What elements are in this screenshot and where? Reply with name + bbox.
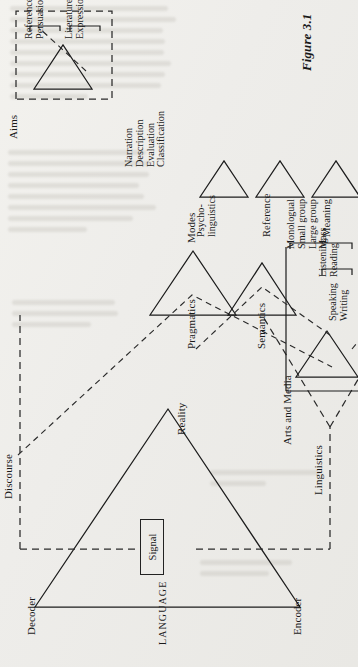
- psycholinguistics-line-2: linguistics: [207, 195, 218, 237]
- figure-linework: [0, 0, 358, 667]
- label-linguistics: Linguistics: [313, 445, 324, 495]
- label-semantics-reference: Reference: [262, 194, 273, 237]
- language-triangle: [35, 409, 300, 607]
- syntactics-fan: [352, 285, 358, 349]
- label-language-title: LANGUAGE: [158, 581, 168, 645]
- label-meaning: Meaning: [322, 199, 333, 237]
- modes-list: Narration Description Evaluation Classif…: [124, 111, 167, 167]
- linguistics-to-semantics: [262, 315, 330, 427]
- signal-box: Signal: [140, 519, 164, 575]
- aims-item-3: Expression: [75, 0, 86, 39]
- meaning-triangle: [312, 161, 358, 197]
- audience-item-1: Small group: [297, 199, 308, 249]
- label-semantics: Semantics: [256, 303, 267, 349]
- figure-caption: Figure 3.1: [300, 14, 313, 71]
- aims-triangle: [34, 45, 92, 89]
- aims-item-1: Persuasion: [35, 0, 46, 39]
- label-aims: Aims: [8, 115, 19, 139]
- label-arts-and-media: Arts and Media: [282, 375, 293, 445]
- label-psycholinguistics: Psycho- linguistics: [196, 195, 218, 237]
- label-reality: Reality: [176, 403, 187, 435]
- arts-triangle: [296, 331, 358, 377]
- label-discourse: Discourse: [3, 454, 14, 499]
- label-decoder: Decoder: [26, 597, 37, 635]
- modes-item-3: Classification: [156, 111, 167, 167]
- modes-item-1: Description: [135, 111, 146, 167]
- label-pragmatics: Pragmatics: [186, 299, 197, 349]
- reference-triangle: [256, 161, 304, 197]
- aims-list: Reference Persuasion: [24, 0, 46, 39]
- production-list: Speaking Writing: [328, 283, 350, 321]
- figure-canvas: Decoder Encoder LANGUAGE Signal Reality …: [0, 0, 358, 667]
- reception-item-1: Reading: [329, 239, 340, 277]
- signal-box-label: Signal: [147, 534, 158, 561]
- production-item-1: Writing: [339, 283, 350, 321]
- label-encoder: Encoder: [292, 598, 303, 635]
- aims-list-2: Literature Expression: [64, 0, 86, 39]
- psycholinguistics-triangle: [200, 161, 248, 197]
